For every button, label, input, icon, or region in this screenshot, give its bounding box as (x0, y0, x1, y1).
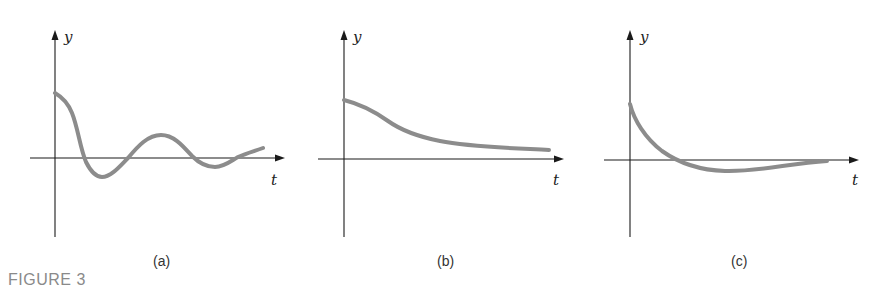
response-curve (55, 93, 263, 177)
x-axis-label: t (852, 171, 859, 189)
figure-canvas: y t (a) y t (b) y t (c) (0, 0, 894, 297)
response-curve (344, 100, 549, 150)
y-axis-arrow-icon (341, 30, 348, 40)
y-axis-label: y (63, 28, 73, 46)
panel-caption: (b) (437, 253, 454, 269)
figure-label: FIGURE 3 (8, 271, 86, 289)
x-axis-arrow-icon (849, 157, 859, 164)
x-axis-label: t (553, 171, 560, 189)
y-axis-label: y (639, 28, 649, 46)
panel-caption: (c) (731, 253, 747, 269)
panel-caption: (a) (153, 253, 170, 269)
x-axis-arrow-icon (554, 156, 564, 163)
y-axis-label: y (352, 28, 362, 46)
panel-b: y t (b) (318, 28, 564, 269)
x-axis-arrow-icon (275, 155, 285, 162)
y-axis-arrow-icon (52, 30, 59, 40)
x-axis-label: t (271, 171, 278, 189)
response-curve (630, 104, 827, 171)
panel-a: y t (a) (30, 28, 285, 269)
panel-c: y t (c) (604, 28, 859, 269)
y-axis-arrow-icon (627, 30, 634, 40)
